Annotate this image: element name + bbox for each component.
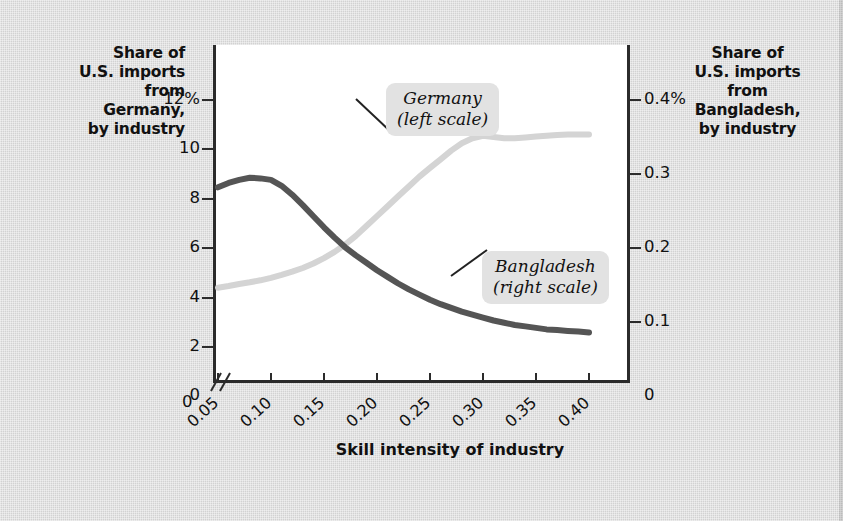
- x-tick-label-0.10: 0.10: [236, 393, 275, 431]
- left-axis-title-line-5: by industry: [10, 120, 185, 139]
- left-tick-label-2: 2: [140, 336, 200, 355]
- left-axis-title-line-1: Share of: [10, 44, 185, 63]
- left-tick-6: [202, 247, 213, 249]
- right-tick-label-0: 0: [644, 385, 704, 404]
- callout-bangladesh-line1: Bangladesh: [493, 256, 598, 277]
- right-axis-title-line-1: Share of: [660, 44, 835, 63]
- right-tick-0.4%: [630, 99, 641, 101]
- x-tick-label-0.40: 0.40: [554, 393, 593, 431]
- x-tick-label-0.20: 0.20: [342, 393, 381, 431]
- right-tick-label-0.4%: 0.4%: [644, 89, 704, 108]
- left-tick-10: [202, 148, 213, 150]
- x-tick-label-0.30: 0.30: [448, 393, 487, 431]
- left-tick-label-12%: 12%: [140, 89, 200, 108]
- x-tick-0.25: [429, 373, 431, 383]
- left-tick-label-6: 6: [140, 237, 200, 256]
- left-tick-label-10: 10: [140, 138, 200, 157]
- x-tick-0.30: [482, 373, 484, 383]
- right-tick-label-0.3: 0.3: [644, 163, 704, 182]
- left-tick-4: [202, 297, 213, 299]
- right-tick-label-0.2: 0.2: [644, 237, 704, 256]
- x-tick-0.35: [535, 373, 537, 383]
- right-axis-title-line-2: U.S. imports: [660, 63, 835, 82]
- right-tick-0.2: [630, 247, 641, 249]
- axis-break-marks: [205, 369, 245, 395]
- left-tick-12%: [202, 99, 213, 101]
- left-tick-2: [202, 346, 213, 348]
- callout-germany[interactable]: Germany (left scale): [386, 83, 499, 136]
- x-tick-0.20: [376, 373, 378, 383]
- figure-panel: Share ofU.S. importsfromGermany,by indus…: [0, 0, 843, 521]
- right-tick-label-0.1: 0.1: [644, 311, 704, 330]
- x-origin-label: 0: [182, 392, 193, 411]
- callout-germany-line2: (left scale): [397, 109, 488, 130]
- x-tick-label-0.35: 0.35: [501, 393, 540, 431]
- right-tick-0.3: [630, 173, 641, 175]
- left-tick-label-8: 8: [140, 188, 200, 207]
- x-tick-0.05: [217, 373, 219, 383]
- left-tick-label-4: 4: [140, 287, 200, 306]
- x-tick-0.10: [270, 373, 272, 383]
- callout-bangladesh-line2: (right scale): [493, 277, 598, 298]
- x-tick-label-0.25: 0.25: [395, 393, 434, 431]
- x-tick-label-0.15: 0.15: [289, 393, 328, 431]
- right-axis-title-line-5: by industry: [660, 120, 835, 139]
- x-axis-title: Skill intensity of industry: [250, 440, 650, 459]
- left-axis-title-line-2: U.S. imports: [10, 63, 185, 82]
- left-tick-8: [202, 198, 213, 200]
- x-tick-0.40: [588, 373, 590, 383]
- callout-germany-line1: Germany: [397, 88, 488, 109]
- right-tick-0.1: [630, 321, 641, 323]
- x-tick-0.15: [323, 373, 325, 383]
- callout-bangladesh[interactable]: Bangladesh (right scale): [482, 251, 609, 304]
